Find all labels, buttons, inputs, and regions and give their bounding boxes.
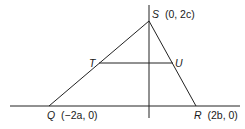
label-point-U: U bbox=[175, 57, 183, 69]
label-point-R: R (2b, 0) bbox=[194, 109, 238, 121]
triangle-diagram: S (0, 2c) Q (−2a, 0) R (2b, 0) T U bbox=[0, 0, 245, 129]
label-point-Q: Q (−2a, 0) bbox=[47, 109, 98, 121]
label-point-T: T bbox=[89, 57, 97, 69]
label-point-S: S (0, 2c) bbox=[152, 8, 195, 20]
